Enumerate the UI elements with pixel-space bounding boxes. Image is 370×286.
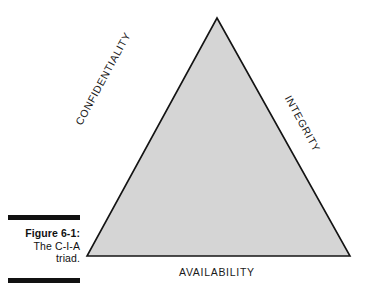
caption-rule-top (8, 215, 80, 220)
figure-container: CONFIDENTIALITY INTEGRITY AVAILABILITY F… (0, 0, 370, 286)
figure-caption: Figure 6-1: The C-I-A triad. (0, 227, 80, 265)
figure-caption-line-2: triad. (0, 252, 80, 265)
label-availability: AVAILABILITY (179, 266, 255, 278)
figure-number-label: Figure 6-1: (0, 227, 80, 240)
figure-caption-line-1: The C-I-A (0, 240, 80, 253)
caption-rule-bottom (8, 278, 80, 283)
